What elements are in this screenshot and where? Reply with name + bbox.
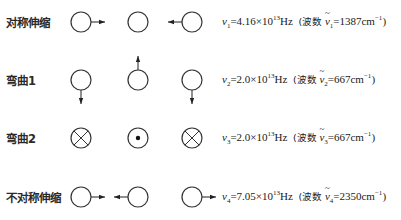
mode-label-2: 弯曲1 [6,72,36,88]
close-paren: ) [371,131,375,143]
carbon-atom [128,70,148,90]
wavenumber-value: =2350cm [333,190,375,202]
frequency-unit: Hz [280,190,293,202]
nu-tilde-symbol: ν [325,15,330,27]
arrow-right-icon-head [99,20,105,24]
oxygen-atom [182,70,202,90]
arrow-left-icon-head [114,195,120,199]
mode-formula-1: ν1=4.16×1013Hz (波数 ν1=1387cm−1) [222,14,386,30]
wavenumber-prefix: (波数 [293,74,317,85]
mode-formula-2: ν2=2.0×1013Hz (波数 ν2=667cm−1) [222,72,375,88]
oxygen-atom [182,12,202,32]
mode-label-4: 不对称伸缩 [6,189,61,205]
arrow-right-icon-head [99,195,105,199]
carbon-atom [128,187,148,207]
frequency-mantissa: 7.05×10 [237,190,273,202]
frequency-mantissa: 4.16×10 [237,15,273,27]
mode-label-1: 对称伸缩 [6,14,50,30]
close-paren: ) [382,190,386,202]
oxygen-atom [182,187,202,207]
frequency-mantissa: 2.0×10 [237,73,268,85]
oxygen-atom [71,70,91,90]
carbon-atom [128,12,148,32]
arrow-right-icon-head [210,195,216,199]
frequency-mantissa: 2.0×10 [237,131,268,143]
wavenumber-value: =667cm [328,73,364,85]
frequency-unit: Hz [280,15,293,27]
wavenumber-value: =667cm [328,131,364,143]
mode-formula-4: ν4=7.05×1013Hz (波数 ν4=2350cm−1) [222,189,386,205]
close-paren: ) [371,73,375,85]
nu-tilde-symbol: ν [319,73,324,85]
arrow-down-icon-head [79,98,83,104]
molecule-diagram [0,0,401,220]
out-of-page-dot [136,136,140,140]
close-paren: ) [382,15,386,27]
wavenumber-prefix: (波数 [293,132,317,143]
nu-tilde-symbol: ν [325,190,330,202]
oxygen-atom [71,12,91,32]
wavenumber-prefix: (波数 [298,16,322,27]
frequency-unit: Hz [275,131,288,143]
frequency-exponent: 13 [268,130,275,138]
wavenumber-value: =1387cm [333,15,375,27]
oxygen-atom [71,187,91,207]
frequency-exponent: 13 [268,72,275,80]
nu-tilde-symbol: ν [319,131,324,143]
arrow-down-icon-head [190,98,194,104]
mode-formula-3: ν3=2.0×1013Hz (波数 ν3=667cm−1) [222,130,375,146]
mode-label-3: 弯曲2 [6,130,36,146]
wavenumber-prefix: (波数 [298,191,322,202]
arrow-left-icon-head [168,20,174,24]
arrow-up-icon-head [136,56,140,62]
frequency-unit: Hz [275,73,288,85]
